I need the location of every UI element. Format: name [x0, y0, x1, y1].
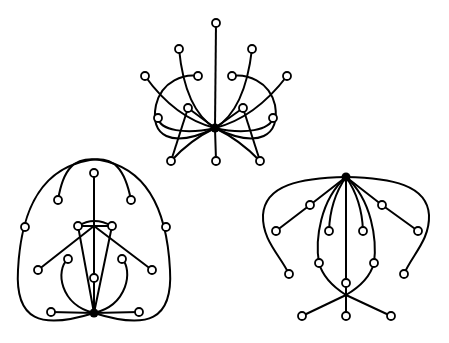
- vertex: [400, 270, 408, 278]
- vertex: [54, 196, 62, 204]
- vertex: [285, 270, 293, 278]
- vertex: [167, 157, 175, 165]
- vertex: [148, 266, 156, 274]
- vertex: [370, 259, 378, 267]
- vertex: [342, 279, 350, 287]
- left-graph-edges: [18, 159, 170, 320]
- vertex: [47, 308, 55, 316]
- hub-vertex: [90, 309, 99, 318]
- vertex: [184, 104, 192, 112]
- vertex: [228, 72, 236, 80]
- hub-vertex: [342, 173, 351, 182]
- vertex: [325, 227, 333, 235]
- vertex: [194, 72, 202, 80]
- vertex: [298, 312, 306, 320]
- vertex: [283, 72, 291, 80]
- vertex: [414, 227, 422, 235]
- vertex: [212, 157, 220, 165]
- vertex: [21, 223, 29, 231]
- vertex: [90, 274, 98, 282]
- vertex: [306, 201, 314, 209]
- top-graph: [141, 19, 291, 165]
- vertex: [315, 259, 323, 267]
- left-graph: [18, 159, 170, 320]
- vertex: [108, 222, 116, 230]
- vertex: [90, 169, 98, 177]
- vertex: [34, 266, 42, 274]
- vertex: [272, 227, 280, 235]
- vertex: [342, 312, 350, 320]
- vertex: [248, 45, 256, 53]
- vertex: [269, 114, 277, 122]
- vertex: [74, 222, 82, 230]
- top-graph-edges: [145, 23, 287, 161]
- vertex: [141, 72, 149, 80]
- vertex: [64, 255, 72, 263]
- vertex: [359, 227, 367, 235]
- graph-diagram-figure: [0, 0, 449, 343]
- vertex: [175, 45, 183, 53]
- right-graph: [263, 173, 429, 321]
- vertex: [162, 223, 170, 231]
- vertex: [378, 201, 386, 209]
- right-graph-edges: [263, 177, 429, 316]
- vertex: [212, 19, 220, 27]
- vertex: [239, 104, 247, 112]
- vertex: [256, 157, 264, 165]
- vertex: [387, 312, 395, 320]
- vertex: [154, 114, 162, 122]
- vertex: [127, 196, 135, 204]
- hub-vertex: [211, 124, 220, 133]
- vertex: [135, 308, 143, 316]
- vertex: [118, 255, 126, 263]
